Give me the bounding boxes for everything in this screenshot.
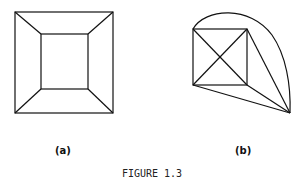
panel-a-graph xyxy=(15,12,113,113)
figure-caption: FIGURE 1.3 xyxy=(0,168,304,179)
panel-a-label: (a) xyxy=(55,145,71,156)
figure-diagram xyxy=(0,0,304,183)
panel-b-label: (b) xyxy=(235,145,251,156)
panel-b-graph xyxy=(193,13,290,113)
